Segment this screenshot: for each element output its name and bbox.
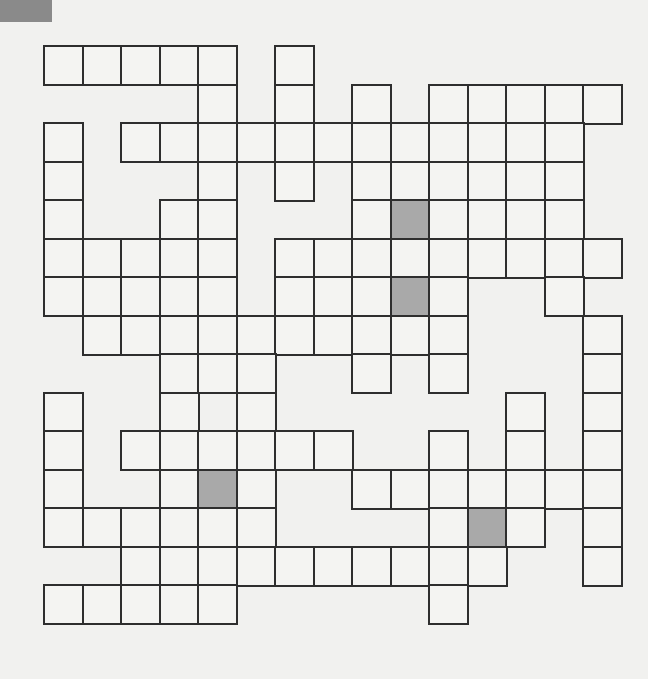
grid-cell[interactable]	[82, 45, 123, 86]
grid-cell[interactable]	[274, 315, 315, 356]
grid-cell[interactable]	[313, 430, 354, 471]
shaded-cell[interactable]	[197, 469, 238, 510]
grid-cell[interactable]	[313, 546, 354, 587]
grid-cell[interactable]	[43, 122, 84, 163]
grid-cell[interactable]	[467, 122, 508, 163]
grid-cell[interactable]	[82, 315, 123, 356]
grid-cell[interactable]	[505, 122, 546, 163]
grid-cell[interactable]	[428, 584, 469, 625]
grid-cell[interactable]	[43, 276, 84, 317]
grid-cell[interactable]	[313, 238, 354, 279]
grid-cell[interactable]	[197, 122, 238, 163]
grid-cell[interactable]	[428, 507, 469, 548]
grid-cell[interactable]	[82, 584, 123, 625]
grid-cell[interactable]	[120, 315, 161, 356]
grid-cell[interactable]	[467, 84, 508, 125]
grid-cell[interactable]	[428, 430, 469, 471]
grid-cell[interactable]	[390, 546, 431, 587]
grid-cell[interactable]	[197, 546, 238, 587]
grid-cell[interactable]	[274, 161, 315, 202]
grid-cell[interactable]	[505, 84, 546, 125]
grid-cell[interactable]	[351, 469, 392, 510]
grid-cell[interactable]	[582, 84, 623, 125]
grid-cell[interactable]	[120, 546, 161, 587]
grid-cell[interactable]	[159, 430, 200, 471]
grid-cell[interactable]	[274, 238, 315, 279]
grid-cell[interactable]	[197, 353, 238, 394]
grid-cell[interactable]	[428, 546, 469, 587]
grid-cell[interactable]	[467, 469, 508, 510]
grid-cell[interactable]	[159, 238, 200, 279]
grid-cell[interactable]	[582, 507, 623, 548]
shaded-cell[interactable]	[390, 199, 431, 240]
grid-cell[interactable]	[159, 353, 200, 394]
grid-cell[interactable]	[197, 507, 238, 548]
grid-cell[interactable]	[351, 238, 392, 279]
grid-cell[interactable]	[544, 161, 585, 202]
grid-cell[interactable]	[505, 430, 546, 471]
grid-cell[interactable]	[82, 238, 123, 279]
grid-cell[interactable]	[120, 238, 161, 279]
grid-cell[interactable]	[274, 122, 315, 163]
grid-cell[interactable]	[43, 45, 84, 86]
grid-cell[interactable]	[544, 469, 585, 510]
grid-cell[interactable]	[159, 276, 200, 317]
grid-cell[interactable]	[428, 353, 469, 394]
grid-cell[interactable]	[197, 430, 238, 471]
grid-cell[interactable]	[351, 122, 392, 163]
grid-cell[interactable]	[544, 84, 585, 125]
grid-cell[interactable]	[236, 546, 277, 587]
grid-cell[interactable]	[428, 199, 469, 240]
grid-cell[interactable]	[274, 276, 315, 317]
grid-cell[interactable]	[274, 84, 315, 125]
grid-cell[interactable]	[159, 546, 200, 587]
grid-cell[interactable]	[505, 161, 546, 202]
grid-cell[interactable]	[43, 430, 84, 471]
grid-cell[interactable]	[544, 238, 585, 279]
grid-cell[interactable]	[351, 199, 392, 240]
grid-cell[interactable]	[313, 122, 354, 163]
grid-cell[interactable]	[120, 507, 161, 548]
grid-cell[interactable]	[120, 276, 161, 317]
grid-cell[interactable]	[428, 315, 469, 356]
grid-cell[interactable]	[390, 315, 431, 356]
grid-cell[interactable]	[467, 238, 508, 279]
grid-cell[interactable]	[351, 546, 392, 587]
grid-cell[interactable]	[236, 315, 277, 356]
grid-cell[interactable]	[236, 122, 277, 163]
grid-cell[interactable]	[428, 276, 469, 317]
grid-cell[interactable]	[351, 315, 392, 356]
grid-cell[interactable]	[428, 84, 469, 125]
grid-cell[interactable]	[428, 238, 469, 279]
grid-cell[interactable]	[351, 84, 392, 125]
grid-cell[interactable]	[43, 584, 84, 625]
grid-cell[interactable]	[582, 392, 623, 433]
grid-cell[interactable]	[505, 469, 546, 510]
grid-cell[interactable]	[274, 430, 315, 471]
grid-cell[interactable]	[544, 122, 585, 163]
grid-cell[interactable]	[197, 161, 238, 202]
grid-cell[interactable]	[159, 507, 200, 548]
grid-cell[interactable]	[390, 161, 431, 202]
grid-cell[interactable]	[544, 276, 585, 317]
grid-cell[interactable]	[43, 469, 84, 510]
grid-cell[interactable]	[197, 584, 238, 625]
grid-cell[interactable]	[236, 353, 277, 394]
shaded-cell[interactable]	[390, 276, 431, 317]
grid-cell[interactable]	[351, 276, 392, 317]
grid-cell[interactable]	[197, 315, 238, 356]
grid-cell[interactable]	[428, 122, 469, 163]
grid-cell[interactable]	[82, 276, 123, 317]
grid-cell[interactable]	[505, 392, 546, 433]
grid-cell[interactable]	[505, 238, 546, 279]
grid-cell[interactable]	[428, 469, 469, 510]
grid-cell[interactable]	[582, 469, 623, 510]
grid-cell[interactable]	[197, 238, 238, 279]
grid-cell[interactable]	[159, 45, 200, 86]
grid-cell[interactable]	[197, 276, 238, 317]
grid-cell[interactable]	[505, 199, 546, 240]
grid-cell[interactable]	[236, 507, 277, 548]
grid-cell[interactable]	[582, 546, 623, 587]
grid-cell[interactable]	[390, 469, 431, 510]
grid-cell[interactable]	[159, 584, 200, 625]
